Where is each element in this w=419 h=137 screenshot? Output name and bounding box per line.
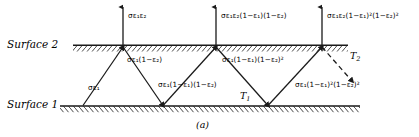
flux-label-emitted-3: σε₁ε₂(1−ε₁)²(1−ε₂)² [327, 12, 399, 19]
ray-path-zigzag [83, 47, 352, 106]
flux-label-emitted-1: σε₁ε₂ [128, 12, 147, 19]
ray-down-3-dashed [322, 47, 352, 81]
flux-label-incident-3: σε₁(1−ε₁)²(1−ε₂)² [295, 81, 360, 88]
figure-caption: (a) [196, 120, 209, 130]
flux-label-emitted-2: σε₁ε₂(1−ε₁)(1−ε₂) [221, 12, 287, 19]
flux-label-reflected-1: σε₁(1−ε₂) [127, 56, 162, 63]
ray-up-2 [163, 47, 216, 106]
flux-label-reflected-2: σε₁(1−ε₁)(1−ε₂)² [222, 56, 284, 63]
temperature-t2-label: T2 [350, 51, 360, 62]
ray-up-1 [83, 47, 123, 106]
surface-2-boundary [73, 45, 348, 51]
ray-diagram-svg [0, 0, 419, 137]
radiation-multiple-reflection-diagram: Surface 2 Surface 1 T2 T1 σε₁ε₂ σε₁ε₂(1−… [0, 0, 419, 137]
surface-1-label: Surface 1 [7, 99, 58, 110]
flux-label-incident-1: σε₁ [88, 84, 100, 91]
surface-2-label: Surface 2 [7, 39, 58, 50]
surface-1-boundary [60, 106, 360, 112]
temperature-t2-subscript: 2 [356, 55, 360, 63]
temperature-t1-subscript: 1 [246, 95, 250, 103]
temperature-t1-label: T1 [240, 91, 250, 102]
flux-label-incident-2: σε₁(1−ε₁)(1−ε₂) [158, 81, 217, 88]
